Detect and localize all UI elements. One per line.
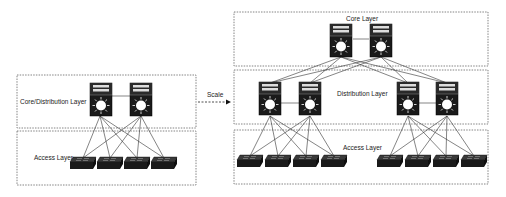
core-switch-icon [330,24,352,57]
arrow-head-icon [226,100,231,105]
access-switch-icon [461,155,487,167]
access-switch-icon [293,155,319,167]
access-switch-icon [433,155,459,167]
network-diagram: Core/Distribution Layer Access Layer Sca… [0,0,506,197]
core-layer-label: Core Layer [346,15,379,23]
scale-arrow: Scale [198,91,231,105]
multilayer-switch-icon [130,83,152,116]
distribution-switch-icon [436,82,458,115]
distribution-switch-icon [259,82,281,115]
access-switch-icon [237,155,263,167]
access-switch-icon [377,155,403,167]
right-topology: Core Layer Distribution Layer Access Lay… [234,12,488,184]
access-switch-icon [265,155,291,167]
distribution-switch-icon [299,82,321,115]
access-switch-icon [124,157,150,169]
access-switch-icon [151,157,177,169]
multilayer-switch-icon [90,83,112,116]
core-switch-icon [370,24,392,57]
access-layer-label: Access Layer [343,144,383,152]
core-distribution-layer-label: Core/Distribution Layer [20,98,87,106]
distribution-switch-icon [397,82,419,115]
distribution-layer-label: Distribution Layer [337,90,388,98]
access-switch-icon [97,157,123,169]
access-switch-icon [70,157,96,169]
left-topology: Core/Distribution Layer Access Layer [17,75,196,185]
access-layer-label: Access Layer [34,154,74,162]
access-switch-icon [405,155,431,167]
access-switch-icon [321,155,347,167]
scale-label: Scale [207,91,224,98]
